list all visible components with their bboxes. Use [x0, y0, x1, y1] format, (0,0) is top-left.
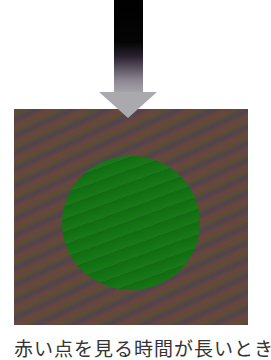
- arrow-shaft: [114, 0, 143, 94]
- green-circle: [62, 156, 200, 290]
- caption-text: 赤い点を見る時間が長いとき: [14, 338, 254, 360]
- down-arrow-icon: [99, 92, 157, 118]
